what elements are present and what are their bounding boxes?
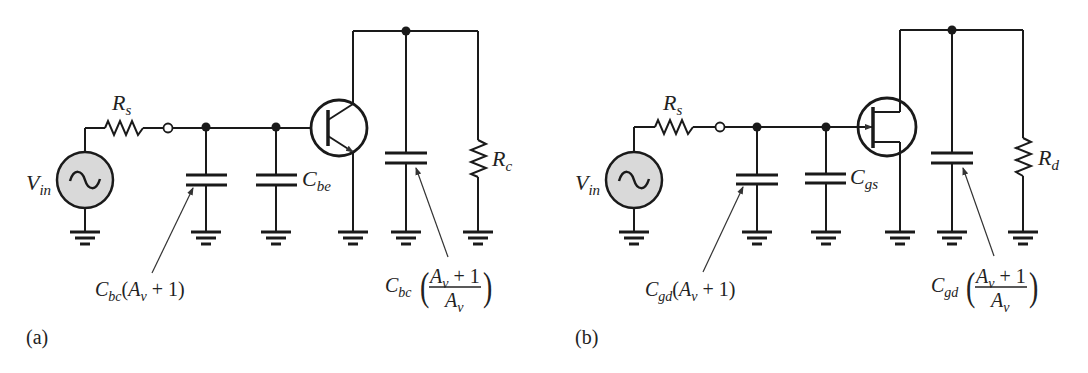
resistor-rs-icon <box>85 121 164 135</box>
ac-source-icon <box>606 127 662 244</box>
miller-circuits-figure: Vin Rs Cbe <box>0 0 1088 373</box>
svg-text:Av: Av <box>989 289 1010 315</box>
svg-text:Av: Av <box>443 289 464 315</box>
cgs-capacitor-icon <box>805 123 846 245</box>
rs-label: Rs <box>111 90 131 118</box>
ac-source-icon <box>57 128 113 244</box>
resistor-rc-icon <box>463 31 493 244</box>
miller-input-label: Cgd(Av + 1) <box>645 278 735 304</box>
svg-text:(: ( <box>420 264 429 309</box>
cbe-label: Cbe <box>302 166 331 194</box>
panel-a-caption: (a) <box>26 326 48 349</box>
svg-text:): ) <box>483 264 492 309</box>
npn-transistor-icon <box>311 31 368 244</box>
panel-b-jfet-circuit: Vin Rs Cgs <box>575 26 1059 350</box>
arrow-icon <box>963 168 994 256</box>
miller-output-capacitor-icon <box>931 30 973 244</box>
miller-output-label: Cbc ( Av + 1 Av ) <box>385 264 492 315</box>
arrow-icon <box>416 168 448 257</box>
jfet-transistor-icon <box>826 30 916 244</box>
arrow-icon <box>152 188 193 273</box>
resistor-rd-icon <box>1008 30 1038 244</box>
rc-label: Rc <box>491 146 512 174</box>
panel-b-caption: (b) <box>575 326 598 349</box>
rs-label: Rs <box>662 90 682 118</box>
resistor-rs-icon <box>634 120 716 134</box>
miller-output-label: Cgd ( Av + 1 Av ) <box>931 264 1038 315</box>
input-terminal <box>164 124 173 133</box>
input-terminal <box>716 123 725 132</box>
rd-label: Rd <box>1037 145 1059 173</box>
miller-input-label: Cbc(Av + 1) <box>95 278 185 304</box>
svg-text:Cbc: Cbc <box>385 274 412 300</box>
arrow-icon <box>703 187 743 272</box>
svg-text:(: ( <box>966 264 975 309</box>
cgs-label: Cgs <box>850 164 878 192</box>
vin-label: Vin <box>575 170 600 198</box>
miller-input-capacitor-icon <box>736 123 778 245</box>
miller-output-capacitor-icon <box>385 31 427 244</box>
vin-label: Vin <box>26 170 51 198</box>
cbe-capacitor-icon <box>256 123 297 245</box>
panel-a-bjt-circuit: Vin Rs Cbe <box>26 27 512 350</box>
svg-text:): ) <box>1029 264 1038 309</box>
miller-input-capacitor-icon <box>186 123 227 245</box>
svg-text:Cgd: Cgd <box>931 274 959 300</box>
